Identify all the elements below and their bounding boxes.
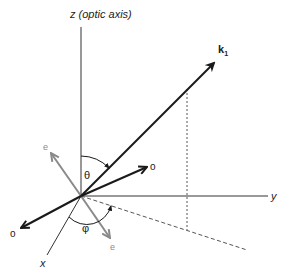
e-arrow-upper [51, 153, 81, 196]
theta-arc [81, 156, 109, 168]
o-arrow-right [81, 167, 147, 196]
z-axis-label: z (optic axis) [69, 8, 132, 20]
o-label-left: o [10, 228, 16, 239]
phi-label: φ [82, 222, 89, 234]
k1-label: k1 [218, 43, 228, 57]
k1-vector [81, 63, 214, 196]
e-label-lower: e [110, 242, 115, 252]
projection-xy-line [81, 196, 247, 250]
theta-label: θ [84, 169, 90, 181]
e-label-upper: e [43, 142, 48, 152]
y-axis-label: y [270, 190, 278, 202]
x-axis-label: x [39, 257, 46, 269]
o-label-right: o [150, 161, 156, 172]
coordinate-diagram: z (optic axis) y x k1 o o e e θ φ [0, 0, 293, 277]
